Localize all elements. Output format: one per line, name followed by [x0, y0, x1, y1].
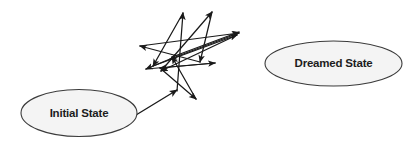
walk-segment: [161, 35, 237, 71]
initial-to-walk-arrow: [136, 90, 177, 115]
walk-segment: [172, 57, 196, 99]
random-walk-path: [140, 12, 239, 99]
walk-segment: [160, 63, 215, 68]
state-diagram: Initial State Dreamed State: [0, 0, 407, 146]
dreamed-state-label: Dreamed State: [295, 57, 373, 69]
walk-segment: [172, 32, 239, 57]
walk-segment: [153, 13, 183, 66]
node-initial-state[interactable]: Initial State: [21, 90, 137, 137]
diagram-canvas: Initial State Dreamed State: [0, 0, 407, 146]
initial-state-label: Initial State: [50, 107, 109, 119]
node-dreamed-state[interactable]: Dreamed State: [265, 41, 402, 86]
